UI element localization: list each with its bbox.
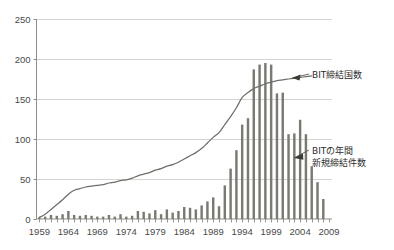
y-axis-tick-label: 0 (25, 214, 30, 225)
bar (90, 216, 92, 219)
bar (154, 210, 156, 219)
x-axis-tick-label: 1999 (261, 226, 282, 237)
x-axis-tick-label: 1989 (203, 226, 224, 237)
bar (224, 185, 226, 219)
bit-treaty-chart: 050100150200250 195919641969197419791984… (0, 0, 394, 250)
bar (270, 65, 272, 219)
bar (137, 211, 139, 219)
y-axis-tick-label: 200 (15, 54, 31, 65)
chart-container: 050100150200250 195919641969197419791984… (0, 0, 394, 250)
bar (171, 213, 173, 219)
x-axis-tick-label: 1974 (116, 226, 137, 237)
y-axis-tick-label: 50 (20, 174, 31, 185)
annotation-line-label: BIT締結国数 (312, 69, 362, 80)
bar (195, 209, 197, 219)
bar (160, 214, 162, 219)
x-axis-tick-label: 2009 (319, 226, 340, 237)
bar (282, 93, 284, 219)
bar (148, 213, 150, 219)
bar (142, 212, 144, 219)
bar (56, 216, 58, 219)
y-axis-tick-label: 100 (15, 134, 31, 145)
x-axis-tick-label: 1984 (174, 226, 195, 237)
bar (189, 208, 191, 219)
bar (102, 217, 104, 219)
bar (258, 65, 260, 219)
x-axis-tick-label: 1979 (145, 226, 166, 237)
x-axis-tick-label: 2004 (290, 226, 311, 237)
bar (85, 215, 87, 219)
bar (322, 199, 324, 219)
annotation-bars-label-line1: BITの年間 (312, 145, 353, 156)
bar (200, 205, 202, 219)
bar (206, 201, 208, 219)
bar (253, 69, 255, 219)
bar (311, 166, 313, 219)
y-axis-tick-label: 250 (15, 14, 31, 25)
bar (287, 134, 289, 219)
bar (131, 216, 133, 219)
x-axis-tick-label: 1959 (29, 226, 50, 237)
bar (218, 206, 220, 219)
bar (96, 217, 98, 219)
bar (61, 214, 63, 219)
bar (73, 215, 75, 219)
bar (166, 209, 168, 219)
annotation-bars-label-line2: 新規締結件数 (312, 157, 366, 168)
bar (183, 207, 185, 219)
bar (119, 214, 121, 219)
bar (67, 211, 69, 219)
bar (114, 217, 116, 219)
bar (264, 63, 266, 219)
bar (241, 125, 243, 219)
x-axis-tick-label: 1994 (232, 226, 253, 237)
bar (247, 118, 249, 219)
bar (212, 197, 214, 219)
x-axis-labels-group: 1959196419691974197919841989199419992004… (29, 226, 340, 237)
bar (108, 215, 110, 219)
bar (316, 182, 318, 219)
x-axis-tick-label: 1969 (87, 226, 108, 237)
bar (235, 150, 237, 219)
bar (125, 217, 127, 219)
x-axis-tick-label: 1964 (58, 226, 79, 237)
bar (79, 216, 81, 219)
bar (50, 215, 52, 219)
bar (305, 134, 307, 219)
bar (44, 217, 46, 219)
y-axis-tick-label: 150 (15, 94, 31, 105)
bar (299, 120, 301, 219)
bar (293, 133, 295, 219)
bar (276, 93, 278, 219)
bar (177, 211, 179, 219)
bar (229, 169, 231, 219)
